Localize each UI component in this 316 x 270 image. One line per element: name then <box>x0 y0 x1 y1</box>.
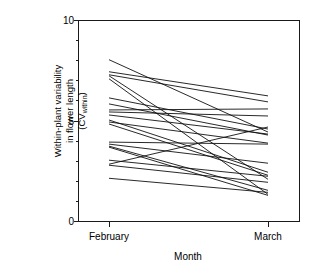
data-series-group <box>109 60 268 196</box>
y-axis-ticks <box>74 21 79 222</box>
chart-figure: 10 5 0 February March Month Within-plant… <box>0 0 316 270</box>
x-tick-label-february: February <box>89 231 129 242</box>
x-tick-label-march: March <box>254 231 282 242</box>
series-line-plant-08 <box>109 109 268 110</box>
series-line-plant-21 <box>109 178 268 192</box>
series-line-plant-09 <box>109 112 268 116</box>
series-line-plant-07 <box>109 104 268 135</box>
y-tick-label-10: 10 <box>63 15 75 26</box>
series-line-plant-14 <box>109 142 268 144</box>
x-axis-ticks <box>109 222 268 227</box>
y-tick-label-0: 0 <box>68 216 74 227</box>
series-line-plant-17 <box>109 147 268 195</box>
series-line-plant-03 <box>109 75 268 102</box>
chart-plot-svg: 10 5 0 February March Month <box>0 0 316 270</box>
series-line-plant-02 <box>109 72 268 96</box>
series-line-plant-15 <box>109 144 268 163</box>
y-tick-label-5: 5 <box>68 116 74 127</box>
x-axis-title: Month <box>174 251 202 262</box>
